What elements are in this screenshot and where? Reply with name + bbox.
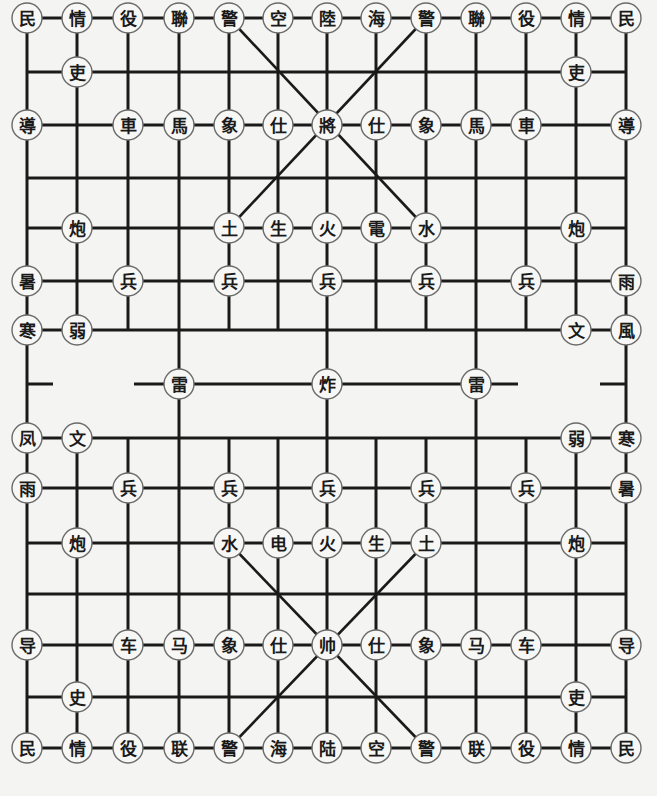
game-piece[interactable]: 弱 <box>561 423 591 453</box>
game-piece[interactable]: 土 <box>214 213 244 243</box>
game-piece[interactable]: 兵 <box>214 266 244 296</box>
game-piece[interactable]: 兵 <box>113 473 143 503</box>
game-piece[interactable]: 火 <box>312 213 342 243</box>
game-piece[interactable]: 兵 <box>511 266 541 296</box>
game-piece[interactable]: 情 <box>62 3 92 33</box>
game-piece[interactable]: 警 <box>411 733 441 763</box>
piece-label: 象 <box>221 116 238 136</box>
game-piece[interactable]: 导 <box>611 630 641 660</box>
game-piece[interactable]: 象 <box>214 630 244 660</box>
game-piece[interactable]: 將 <box>312 110 342 140</box>
game-piece[interactable]: 導 <box>611 110 641 140</box>
game-piece[interactable]: 寒 <box>12 315 42 345</box>
game-piece[interactable]: 帅 <box>312 630 342 660</box>
game-piece[interactable]: 情 <box>62 733 92 763</box>
game-piece[interactable]: 暑 <box>611 473 641 503</box>
game-piece[interactable]: 马 <box>164 630 194 660</box>
game-piece[interactable]: 水 <box>411 213 441 243</box>
game-piece[interactable]: 寒 <box>611 423 641 453</box>
game-piece[interactable]: 空 <box>361 733 391 763</box>
game-board[interactable]: 民情役聯警空陸海警聯役情民吏吏導車馬象仕將仕象馬車導炮土生火電水炮暑兵兵兵兵兵雨… <box>0 0 657 796</box>
game-piece[interactable]: 車 <box>113 110 143 140</box>
game-piece[interactable]: 象 <box>214 110 244 140</box>
game-piece[interactable]: 車 <box>511 110 541 140</box>
game-piece[interactable]: 民 <box>12 733 42 763</box>
game-piece[interactable]: 吏 <box>561 57 591 87</box>
piece-label: 警 <box>220 739 238 759</box>
game-piece[interactable]: 导 <box>12 630 42 660</box>
game-piece[interactable]: 聯 <box>461 3 491 33</box>
game-piece[interactable]: 生 <box>361 528 391 558</box>
game-piece[interactable]: 役 <box>511 3 541 33</box>
game-piece[interactable]: 车 <box>113 630 143 660</box>
game-piece[interactable]: 民 <box>611 733 641 763</box>
game-piece[interactable]: 仕 <box>263 630 293 660</box>
game-piece[interactable]: 暑 <box>12 266 42 296</box>
game-piece[interactable]: 民 <box>611 3 641 33</box>
game-piece[interactable]: 炮 <box>561 213 591 243</box>
game-piece[interactable]: 象 <box>411 630 441 660</box>
game-piece[interactable]: 马 <box>461 630 491 660</box>
piece-label: 雷 <box>171 375 188 395</box>
game-piece[interactable]: 炮 <box>62 213 92 243</box>
game-piece[interactable]: 凤 <box>12 423 42 453</box>
game-piece[interactable]: 雷 <box>461 369 491 399</box>
game-piece[interactable]: 海 <box>263 733 293 763</box>
game-piece[interactable]: 民 <box>12 3 42 33</box>
game-piece[interactable]: 联 <box>164 733 194 763</box>
game-piece[interactable]: 導 <box>12 110 42 140</box>
game-piece[interactable]: 电 <box>263 528 293 558</box>
game-piece[interactable]: 兵 <box>312 473 342 503</box>
piece-label: 民 <box>618 739 635 759</box>
game-piece[interactable]: 兵 <box>113 266 143 296</box>
game-piece[interactable]: 馬 <box>461 110 491 140</box>
game-piece[interactable]: 仕 <box>263 110 293 140</box>
game-piece[interactable]: 生 <box>263 213 293 243</box>
game-piece[interactable]: 電 <box>361 213 391 243</box>
game-piece[interactable]: 役 <box>113 3 143 33</box>
game-piece[interactable]: 役 <box>113 733 143 763</box>
game-piece[interactable]: 陸 <box>312 3 342 33</box>
game-piece[interactable]: 土 <box>411 528 441 558</box>
game-piece[interactable]: 情 <box>561 3 591 33</box>
game-piece[interactable]: 联 <box>461 733 491 763</box>
game-piece[interactable]: 兵 <box>511 473 541 503</box>
game-piece[interactable]: 史 <box>62 682 92 712</box>
game-piece[interactable]: 水 <box>214 528 244 558</box>
game-piece[interactable]: 海 <box>361 3 391 33</box>
game-piece[interactable]: 兵 <box>214 473 244 503</box>
game-piece[interactable]: 象 <box>411 110 441 140</box>
piece-label: 寒 <box>19 321 36 341</box>
game-piece[interactable]: 警 <box>214 733 244 763</box>
game-piece[interactable]: 兵 <box>411 473 441 503</box>
game-piece[interactable]: 馬 <box>164 110 194 140</box>
game-piece[interactable]: 炮 <box>561 528 591 558</box>
game-piece[interactable]: 陆 <box>312 733 342 763</box>
game-piece[interactable]: 兵 <box>312 266 342 296</box>
game-piece[interactable]: 役 <box>511 733 541 763</box>
game-piece[interactable]: 空 <box>263 3 293 33</box>
game-piece[interactable]: 车 <box>511 630 541 660</box>
game-piece[interactable]: 吏 <box>62 57 92 87</box>
game-piece[interactable]: 雷 <box>164 369 194 399</box>
game-piece[interactable]: 雨 <box>611 266 641 296</box>
game-piece[interactable]: 弱 <box>62 315 92 345</box>
piece-label: 聯 <box>468 9 485 29</box>
game-piece[interactable]: 吏 <box>561 682 591 712</box>
game-piece[interactable]: 警 <box>411 3 441 33</box>
game-piece[interactable]: 文 <box>62 423 92 453</box>
game-piece[interactable]: 炸 <box>312 369 342 399</box>
game-piece[interactable]: 兵 <box>411 266 441 296</box>
piece-label: 吏 <box>568 688 586 708</box>
game-piece[interactable]: 仕 <box>361 110 391 140</box>
game-piece[interactable]: 雨 <box>12 473 42 503</box>
game-piece[interactable]: 風 <box>611 315 641 345</box>
game-piece[interactable]: 炮 <box>62 528 92 558</box>
game-piece[interactable]: 聯 <box>164 3 194 33</box>
game-piece[interactable]: 情 <box>561 733 591 763</box>
pieces-layer[interactable]: 民情役聯警空陸海警聯役情民吏吏導車馬象仕將仕象馬車導炮土生火電水炮暑兵兵兵兵兵雨… <box>12 3 641 763</box>
game-piece[interactable]: 火 <box>312 528 342 558</box>
game-piece[interactable]: 警 <box>214 3 244 33</box>
game-piece[interactable]: 文 <box>561 315 591 345</box>
game-piece[interactable]: 仕 <box>361 630 391 660</box>
